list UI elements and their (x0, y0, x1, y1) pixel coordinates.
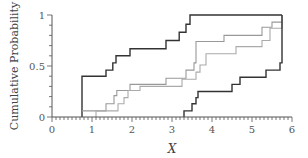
x-tick-label: 4 (209, 124, 215, 135)
y-tick-label: 0 (39, 112, 45, 123)
series-ecdf-1 (82, 15, 282, 111)
x-tick-label: 5 (249, 124, 255, 135)
y-tick-label: 1 (39, 10, 45, 21)
x-tick-label: 2 (129, 124, 135, 135)
axes: 012345600.51 (29, 10, 295, 135)
series-lower-bound (184, 15, 282, 117)
series-layer (82, 15, 282, 117)
cdf-chart: 012345600.51 X Cumulative Probability (0, 0, 308, 158)
series-upper-bound (82, 15, 282, 117)
x-tick-label: 0 (49, 124, 55, 135)
x-axis-title: X (167, 142, 177, 156)
x-tick-label: 1 (89, 124, 95, 135)
x-tick-label: 6 (289, 124, 295, 135)
y-axis-title: Cumulative Probability (8, 1, 21, 130)
y-tick-label: 0.5 (29, 61, 45, 72)
x-tick-label: 3 (169, 124, 175, 135)
